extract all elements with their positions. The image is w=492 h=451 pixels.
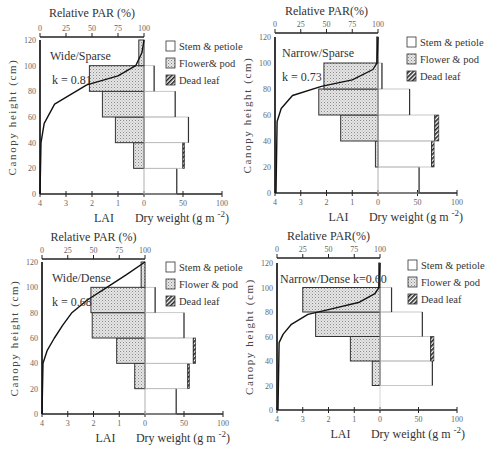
y-tick-label: 60 bbox=[263, 111, 271, 120]
legend-flower-pod-swatch bbox=[408, 277, 417, 287]
legend-dead-leaf-label: Dead leaf bbox=[420, 71, 461, 82]
y-axis-label: Canopy height (cm) bbox=[241, 57, 254, 174]
lai-bar bbox=[372, 361, 380, 386]
stem-bar bbox=[144, 143, 183, 169]
lai-tick-label: 4 bbox=[38, 199, 42, 208]
legend-stem-swatch bbox=[408, 260, 417, 270]
dry-weight-axis-label: Dry weight (g m -2) bbox=[371, 425, 465, 441]
lai-tick-label: 3 bbox=[64, 199, 68, 208]
par-tick-label: 25 bbox=[297, 20, 305, 29]
par-tick-label: 0 bbox=[40, 246, 44, 255]
panel-title: Wide/Sparse bbox=[50, 49, 111, 63]
panel-title: Narrow/Sparse bbox=[282, 46, 354, 60]
stem-bar bbox=[378, 115, 435, 141]
par-tick-label: 75 bbox=[350, 245, 358, 254]
par-tick-label: 25 bbox=[299, 245, 307, 254]
lai-tick-label: 2 bbox=[92, 419, 96, 428]
y-tick-label: 120 bbox=[261, 259, 273, 268]
panel-wide-sparse: Relative PAR (%)025507510002040608010012… bbox=[6, 6, 243, 225]
stem-bar bbox=[144, 91, 175, 117]
lai-tick-label: 1 bbox=[117, 419, 121, 428]
par-tick-label: 100 bbox=[372, 20, 384, 29]
stem-bar bbox=[145, 389, 176, 414]
par-tick-label: 50 bbox=[90, 246, 98, 255]
lai-tick-label: 3 bbox=[299, 198, 303, 207]
stem-bar bbox=[145, 287, 155, 312]
y-tick-label: 0 bbox=[267, 189, 271, 198]
dead-leaf-bar bbox=[188, 363, 190, 388]
lai-bar bbox=[92, 313, 145, 338]
stem-bar bbox=[145, 313, 184, 338]
stem-bar bbox=[144, 168, 177, 194]
stem-bar bbox=[378, 141, 432, 167]
dead-leaf-bar bbox=[183, 143, 185, 169]
lai-axis-label: LAI bbox=[96, 431, 116, 445]
lai-bar bbox=[135, 363, 145, 388]
par-tick-label: 25 bbox=[62, 24, 70, 33]
legend-dead-leaf-swatch bbox=[408, 294, 417, 304]
dead-leaf-bar bbox=[431, 337, 434, 362]
y-tick-label: 100 bbox=[259, 59, 271, 68]
legend-flower-pod-label: Flower& pod bbox=[179, 58, 236, 69]
lai-bar bbox=[102, 91, 144, 117]
par-tick-label: 75 bbox=[348, 20, 356, 29]
legend-dead-leaf-label: Dead leaf bbox=[179, 296, 220, 307]
dead-leaf-bar bbox=[432, 141, 434, 167]
dw-tick-label: 50 bbox=[415, 415, 423, 424]
y-tick-label: 40 bbox=[263, 137, 271, 146]
dry-weight-axis-label: Dry weight (g m -2) bbox=[369, 208, 463, 224]
legend-flower-pod-swatch bbox=[166, 58, 175, 68]
y-tick-label: 40 bbox=[28, 139, 36, 148]
lai-tick-label: 4 bbox=[275, 415, 279, 424]
y-tick-label: 80 bbox=[263, 85, 271, 94]
top-axis-title: Relative PAR(%) bbox=[285, 4, 368, 18]
stem-bar bbox=[380, 361, 432, 386]
lai-bar bbox=[115, 117, 144, 143]
y-tick-label: 0 bbox=[34, 410, 38, 419]
panel-narrow-sparse: Relative PAR(%)0255075100020406080100120… bbox=[241, 4, 484, 224]
lai-tick-label: 0 bbox=[142, 199, 146, 208]
figure: Relative PAR (%)025507510002040608010012… bbox=[0, 0, 492, 451]
y-tick-label: 0 bbox=[32, 190, 36, 199]
par-tick-label: 0 bbox=[38, 24, 42, 33]
lai-bar bbox=[303, 288, 380, 313]
y-tick-label: 20 bbox=[263, 163, 271, 172]
lai-bar bbox=[89, 66, 144, 92]
lai-bar bbox=[316, 312, 380, 337]
stem-bar bbox=[378, 89, 410, 115]
legend-dead-leaf-swatch bbox=[166, 296, 175, 306]
y-tick-label: 40 bbox=[30, 359, 38, 368]
lai-axis-label: LAI bbox=[331, 427, 351, 441]
y-tick-label: 80 bbox=[265, 308, 273, 317]
stem-bar bbox=[145, 363, 188, 388]
lai-bar bbox=[350, 337, 380, 362]
lai-bar bbox=[141, 262, 145, 287]
dw-tick-label: 100 bbox=[217, 419, 229, 428]
lai-tick-label: 2 bbox=[327, 415, 331, 424]
par-tick-label: 100 bbox=[138, 24, 150, 33]
legend-stem-label: Stem & petiole bbox=[179, 262, 243, 273]
lai-axis-label: LAI bbox=[94, 211, 114, 225]
panel-title: Wide/Dense bbox=[52, 271, 111, 285]
legend-flower-pod-label: Flower & pod bbox=[420, 54, 480, 65]
y-tick-label: 100 bbox=[24, 62, 36, 71]
lai-axis-label: LAI bbox=[329, 210, 349, 224]
lai-bar bbox=[319, 89, 378, 115]
y-tick-label: 60 bbox=[30, 334, 38, 343]
extinction-coefficient: k = 0.68 bbox=[52, 295, 92, 309]
par-tick-label: 25 bbox=[64, 246, 72, 255]
y-axis-label: Canopy height (cm) bbox=[6, 59, 19, 176]
legend-stem-swatch bbox=[166, 262, 175, 272]
par-tick-label: 100 bbox=[374, 245, 386, 254]
y-tick-label: 0 bbox=[269, 406, 273, 415]
legend-flower-pod-swatch bbox=[166, 279, 175, 289]
lai-tick-label: 1 bbox=[116, 199, 120, 208]
lai-bar bbox=[134, 143, 144, 169]
dead-leaf-bar bbox=[193, 338, 195, 363]
par-tick-label: 0 bbox=[275, 245, 279, 254]
lai-bar bbox=[117, 338, 145, 363]
par-tick-label: 50 bbox=[325, 245, 333, 254]
y-axis-label: Canopy height (cm) bbox=[8, 280, 21, 397]
lai-tick-label: 2 bbox=[325, 198, 329, 207]
lai-tick-label: 3 bbox=[66, 419, 70, 428]
